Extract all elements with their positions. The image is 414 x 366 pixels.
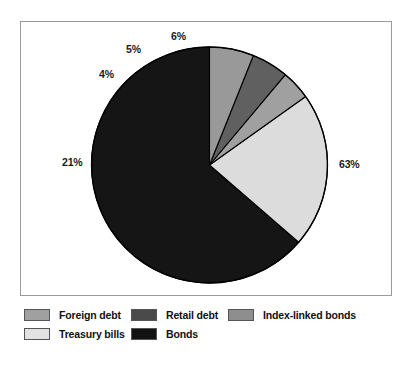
legend-item[interactable]: Bonds (131, 325, 228, 342)
legend-label: Bonds (166, 328, 198, 340)
legend-item[interactable]: Retail debt (131, 306, 228, 323)
chart-legend: Foreign debtRetail debtIndex-linked bond… (24, 306, 396, 344)
legend-swatch-icon (24, 309, 50, 321)
legend-label: Retail debt (166, 309, 218, 321)
pie-percentage-label: 4% (99, 68, 114, 80)
legend-label: Foreign debt (59, 309, 121, 321)
legend-swatch-icon (24, 328, 50, 340)
legend-item[interactable]: Foreign debt (24, 306, 131, 323)
legend-swatch-icon (228, 309, 254, 321)
legend-row: Foreign debtRetail debtIndex-linked bond… (24, 306, 396, 323)
legend-item[interactable]: Treasury bills (24, 325, 131, 342)
legend-swatch-icon (131, 309, 157, 321)
pie-percentage-label: 5% (126, 43, 141, 55)
legend-label: Index-linked bonds (263, 309, 356, 321)
legend-label: Treasury bills (59, 328, 125, 340)
legend-item[interactable]: Index-linked bonds (228, 306, 388, 323)
pie-percentage-label: 21% (62, 156, 82, 168)
pie-percentage-label: 6% (171, 30, 186, 42)
legend-row: Treasury billsBonds (24, 325, 396, 342)
pie-percentage-label: 63% (339, 158, 359, 170)
legend-swatch-icon (131, 328, 157, 340)
pie-chart-page: { "chart_data": { "type": "pie", "title"… (0, 0, 414, 366)
